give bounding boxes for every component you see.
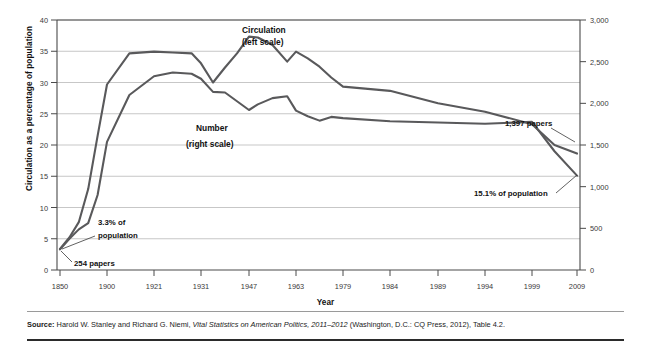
- x-tick: 1999: [524, 282, 540, 291]
- number-legend-line1: Number: [196, 123, 228, 133]
- y-axis-left-title: Circulation as a percentage of populatio…: [25, 0, 34, 234]
- source-note: Source: Harold W. Stanley and Richard G.…: [27, 320, 627, 329]
- source-divider-top: [27, 311, 624, 312]
- x-axis-ticks: [60, 270, 577, 276]
- x-tick: 1850: [52, 282, 68, 291]
- y-left-tick: 15: [40, 172, 48, 181]
- y-right-tick: 2,500: [590, 58, 609, 67]
- bottom-rule: [27, 339, 624, 341]
- start-pct-label-line2: population: [98, 231, 138, 240]
- y-right-tick: 2,000: [590, 99, 609, 108]
- y-left-tick: 25: [40, 110, 48, 119]
- circulation-legend-line1: Circulation: [242, 25, 286, 35]
- x-tick: 1984: [382, 282, 398, 291]
- y-left-tick: 30: [40, 79, 48, 88]
- y-right-tick: 1,500: [590, 141, 609, 150]
- source-text-a: Harold W. Stanley and Richard G. Niemi,: [55, 320, 193, 329]
- y-left-tick: 10: [40, 204, 48, 213]
- y-left-tick: 35: [40, 47, 48, 56]
- x-tick: 1989: [430, 282, 446, 291]
- end-papers-label: 1,397 papers: [505, 119, 553, 128]
- y-right-tick: 500: [590, 224, 602, 233]
- x-tick: 1921: [146, 282, 162, 291]
- x-tick: 1963: [288, 282, 304, 291]
- source-text-b: (Washington, D.C.: CQ Press, 2012), Tabl…: [348, 320, 505, 329]
- end-pct-label: 15.1% of population: [474, 189, 548, 198]
- y-left-tick: 20: [40, 141, 48, 150]
- chart-svg: 40 35 30 25 20 15 10 5 0 3,000 2,500 2,0…: [0, 0, 651, 348]
- x-tick: 2009: [569, 282, 585, 291]
- y-left-tick: 40: [40, 16, 48, 25]
- circulation-legend-line2: (left scale): [242, 37, 284, 47]
- start-papers-label: 254 papers: [74, 259, 115, 268]
- source-title-italic: Vital Statistics on American Politics, 2…: [193, 320, 348, 329]
- x-tick: 1979: [335, 282, 351, 291]
- x-tick: 1931: [193, 282, 209, 291]
- newspaper-circulation-figure: 40 35 30 25 20 15 10 5 0 3,000 2,500 2,0…: [0, 0, 651, 348]
- y-axis-left-ticks: [51, 20, 57, 270]
- number-legend-line2: (right scale): [186, 139, 234, 149]
- y-axis-right-labels: 3,000 2,500 2,000 1,500 1,000 500 0: [590, 16, 609, 275]
- y-left-tick: 5: [44, 235, 48, 244]
- x-axis-title: Year: [0, 298, 651, 307]
- y-left-tick: 0: [44, 266, 48, 275]
- x-tick: 1994: [477, 282, 493, 291]
- y-right-tick: 3,000: [590, 16, 609, 25]
- y-right-tick: 0: [590, 266, 594, 275]
- y-right-tick: 1,000: [590, 183, 609, 192]
- x-tick: 1900: [99, 282, 115, 291]
- y-axis-right-ticks: [580, 20, 586, 270]
- y-axis-left-labels: 40 35 30 25 20 15 10 5 0: [40, 16, 48, 275]
- x-tick: 1947: [241, 282, 257, 291]
- x-axis-labels: 1850 1900 1921 1931 1947 1963 1979 1984 …: [52, 282, 585, 291]
- source-label: Source:: [27, 320, 55, 329]
- start-pct-label-line1: 3.3% of: [98, 218, 126, 227]
